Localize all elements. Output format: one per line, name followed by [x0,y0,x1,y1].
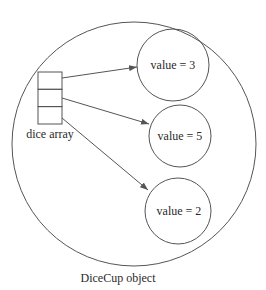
dicecup-object-label: DiceCup object [81,271,157,285]
dice-array-label: dice array [26,127,74,141]
reference-arrow-1 [62,98,149,124]
array-cell-1 [38,89,62,106]
die-value-label-1: value = 5 [158,129,203,143]
reference-arrow-0 [62,67,137,78]
array-cell-2 [38,107,62,124]
dicecup-diagram: value = 3 value = 5 value = 2 dice array… [0,0,266,290]
die-value-label-0: value = 3 [151,58,196,72]
array-cell-0 [38,72,62,89]
dice-array [38,72,62,124]
die-value-label-2: value = 2 [157,204,202,218]
dicecup-object-circle [12,22,256,266]
reference-arrow-2 [62,118,148,190]
